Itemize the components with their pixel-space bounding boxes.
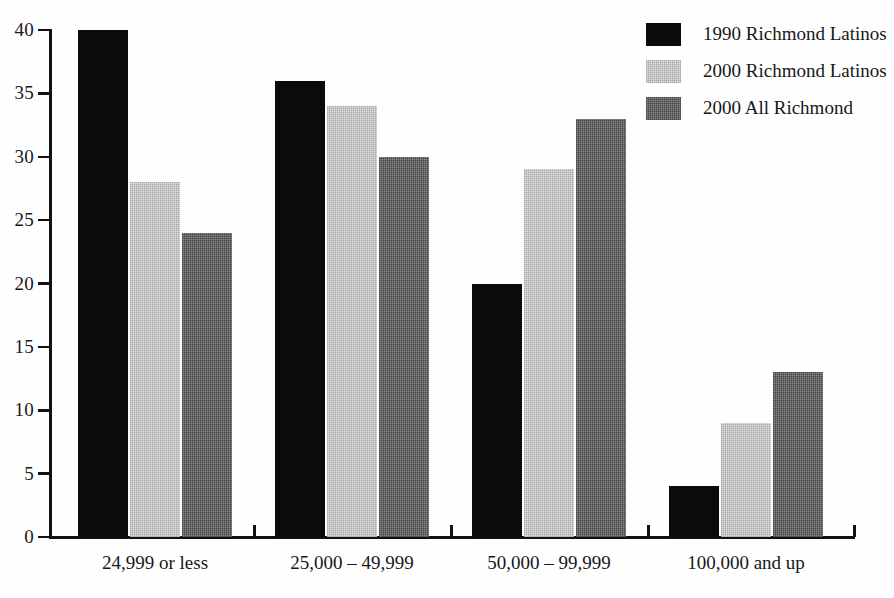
x-axis-minor-tick [647, 525, 650, 537]
legend-item-label: 2000 Richmond Latinos [703, 57, 887, 85]
x-axis-category-label: 100,000 and up [636, 552, 856, 574]
y-axis-tick [38, 472, 51, 475]
mid-gray-swatch-icon [646, 97, 681, 120]
x-axis-category-label: 50,000 – 99,999 [439, 552, 659, 574]
legend-item-label: 1990 Richmond Latinos [703, 20, 887, 48]
x-axis-category-label: 24,999 or less [45, 552, 265, 574]
legend-item: 2000 Richmond Latinos [646, 57, 894, 94]
bar [576, 119, 626, 537]
y-axis-tick [38, 536, 51, 539]
bar [721, 423, 771, 537]
y-axis-tick-label-text: 5 [4, 464, 34, 483]
y-axis-tick-label: 30 [0, 147, 34, 166]
x-axis-category-label: 25,000 – 49,999 [242, 552, 462, 574]
y-axis-tick-label-text: 40 [4, 20, 34, 39]
x-axis-minor-tick [450, 525, 453, 537]
bar [379, 157, 429, 537]
legend-item: 1990 Richmond Latinos [646, 20, 894, 57]
x-axis-minor-tick [853, 525, 856, 537]
y-axis-tick-label-text: 30 [4, 147, 34, 166]
y-axis-tick-label-text: 35 [4, 83, 34, 102]
legend-item-label: 2000 All Richmond [703, 94, 853, 122]
x-axis-minor-tick [253, 525, 256, 537]
light-gray-swatch-icon [646, 60, 681, 83]
y-axis-tick [38, 282, 51, 285]
y-axis-tick-label: 10 [0, 400, 34, 419]
y-axis-tick-label: 40 [0, 20, 34, 39]
y-axis-tick [38, 92, 51, 95]
legend-item: 2000 All Richmond [646, 94, 894, 131]
bar [472, 284, 522, 538]
bar [130, 182, 180, 537]
y-axis-tick-label: 0 [0, 527, 34, 546]
y-axis-tick-label: 5 [0, 464, 34, 483]
y-axis-tick [38, 409, 51, 412]
bar [182, 233, 232, 537]
y-axis-tick [38, 156, 51, 159]
y-axis-tick-label-text: 20 [4, 274, 34, 293]
y-axis-tick [38, 29, 51, 32]
y-axis-tick-label-text: 15 [4, 337, 34, 356]
bar [327, 106, 377, 537]
y-axis-tick-label-text: 0 [4, 527, 34, 546]
bar [669, 486, 719, 537]
y-axis-tick-label: 20 [0, 274, 34, 293]
y-axis-tick-label-text: 25 [4, 210, 34, 229]
y-axis-tick-label: 15 [0, 337, 34, 356]
y-axis-tick [38, 346, 51, 349]
bar [78, 30, 128, 537]
black-swatch-icon [646, 23, 681, 46]
bar [275, 81, 325, 537]
bar-chart-figure: 0510152025303540 24,999 or less25,000 – … [0, 0, 894, 598]
y-axis-tick-label: 25 [0, 210, 34, 229]
y-axis-tick-label: 35 [0, 83, 34, 102]
y-axis-tick [38, 219, 51, 222]
bar [524, 169, 574, 537]
chart-legend: 1990 Richmond Latinos 2000 Richmond Lati… [646, 20, 894, 131]
y-axis-tick-label-text: 10 [4, 400, 34, 419]
bar [773, 372, 823, 537]
